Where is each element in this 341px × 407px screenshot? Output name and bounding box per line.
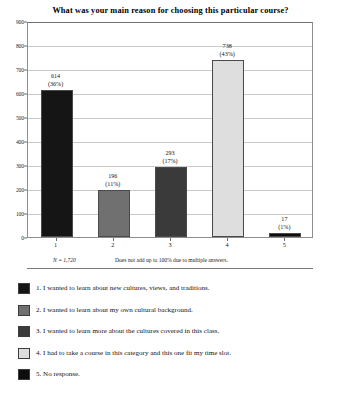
bar-value-label-2: 196(11%)	[83, 172, 143, 188]
legend-item-label: 5. No response.	[36, 369, 80, 380]
bar-percent: (11%)	[83, 180, 143, 188]
x-axis-tick-label-2: 2	[93, 241, 133, 248]
bar-value-label-1: 614(36%)	[26, 72, 86, 88]
legend-swatch-5-icon	[18, 369, 30, 380]
bar-chart-figure: What was your main reason for choosing t…	[0, 0, 341, 407]
y-axis-tick-label: 0	[0, 235, 24, 241]
chart-legend: 1. I wanted to learn about new cultures,…	[18, 283, 328, 391]
bar-1	[41, 90, 73, 237]
bar-percent: (43%)	[197, 50, 257, 58]
bar-value: 614	[51, 73, 60, 79]
footnote-note: Does not add up to 100% due to multiple …	[115, 257, 228, 263]
bar-percent: (36%)	[26, 80, 86, 88]
bar-5	[269, 233, 301, 237]
bars-layer	[28, 23, 312, 237]
y-axis-tick-label: 200	[0, 187, 24, 193]
bar-value-label-3: 293(17%)	[140, 149, 200, 165]
bar-value-label-5: 17(1%)	[254, 215, 314, 231]
y-axis-tick-label: 500	[0, 115, 24, 121]
legend-item-2: 2. I wanted to learn about my own cultur…	[18, 305, 328, 327]
legend-item-4: 4. I had to take a course in this catego…	[18, 348, 328, 370]
x-axis-tick-mark	[227, 238, 228, 241]
footnote-divider	[27, 268, 313, 269]
bar-value: 196	[108, 173, 117, 179]
legend-item-1: 1. I wanted to learn about new cultures,…	[18, 283, 328, 305]
y-axis-tick-label: 600	[0, 91, 24, 97]
y-axis-tick-label: 900	[0, 19, 24, 25]
bar-4	[212, 60, 244, 237]
y-axis-tick-label: 300	[0, 163, 24, 169]
bar-2	[98, 190, 130, 237]
bar-value: 17	[281, 216, 287, 222]
bar-percent: (1%)	[254, 223, 314, 231]
legend-item-3: 3. I wanted to learn more about the cult…	[18, 326, 328, 348]
x-axis-tick-mark	[113, 238, 114, 241]
legend-swatch-1-icon	[18, 283, 30, 294]
legend-swatch-2-icon	[18, 305, 30, 316]
y-axis-tick-label: 400	[0, 139, 24, 145]
y-axis-tick-label: 100	[0, 211, 24, 217]
x-axis-tick-mark	[56, 238, 57, 241]
legend-swatch-4-icon	[18, 348, 30, 359]
footnote: N = 1,720 Does not add up to 100% due to…	[27, 257, 313, 270]
bar-percent: (17%)	[140, 157, 200, 165]
legend-item-label: 4. I had to take a course in this catego…	[36, 348, 231, 359]
x-axis-tick-label-1: 1	[36, 241, 76, 248]
y-axis-tick-label: 700	[0, 67, 24, 73]
bar-value: 738	[223, 43, 232, 49]
legend-swatch-3-icon	[18, 326, 30, 337]
legend-item-label: 1. I wanted to learn about new cultures,…	[36, 283, 210, 294]
plot-wrapper: 0100200300400500600700800900 12345 614(3…	[0, 22, 341, 244]
x-axis-tick-label-3: 3	[150, 241, 190, 248]
sample-size-label: N = 1,720	[53, 257, 76, 263]
legend-item-label: 2. I wanted to learn about my own cultur…	[36, 305, 193, 316]
y-axis-tick-label: 800	[0, 43, 24, 49]
x-axis-tick-label-5: 5	[264, 241, 304, 248]
legend-item-5: 5. No response.	[18, 369, 328, 391]
plot-area	[27, 22, 313, 238]
bar-value: 293	[165, 150, 174, 156]
x-axis-tick-label-4: 4	[207, 241, 247, 248]
x-axis-tick-mark	[284, 238, 285, 241]
bar-3	[155, 167, 187, 237]
chart-title: What was your main reason for choosing t…	[0, 6, 341, 15]
legend-item-label: 3. I wanted to learn more about the cult…	[36, 326, 219, 337]
bar-value-label-4: 738(43%)	[197, 42, 257, 58]
x-axis-tick-mark	[170, 238, 171, 241]
